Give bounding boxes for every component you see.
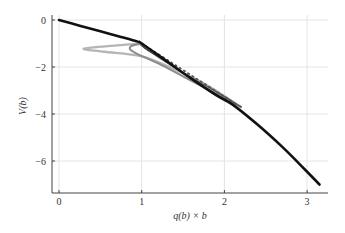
y-tick-label: −2 bbox=[35, 62, 46, 73]
y-tick-label: −6 bbox=[35, 156, 46, 167]
x-tick-label: 3 bbox=[305, 196, 310, 207]
series-group bbox=[59, 20, 320, 185]
x-tick-label: 0 bbox=[57, 196, 62, 207]
x-axis-label: q(b) × b bbox=[173, 210, 206, 222]
axes bbox=[52, 15, 328, 193]
grid-lines bbox=[52, 15, 328, 193]
chart: 0123 0−2−4−6 q(b) × b V(b) bbox=[0, 0, 345, 233]
y-tick-label: 0 bbox=[41, 15, 46, 26]
y-axis-label: V(b) bbox=[17, 96, 29, 114]
y-tick-label: −4 bbox=[35, 109, 46, 120]
series-envelope bbox=[59, 20, 320, 185]
x-tick-label: 1 bbox=[139, 196, 144, 207]
x-tick-label: 2 bbox=[222, 196, 227, 207]
